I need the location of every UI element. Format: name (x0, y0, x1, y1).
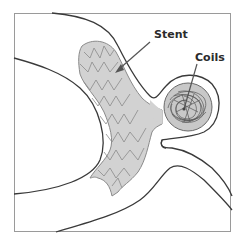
coils-pointer-dot-icon (182, 107, 185, 110)
vessel-wall-lower (56, 166, 232, 232)
stent-label: Stent (154, 28, 188, 41)
aneurysm (164, 83, 212, 131)
diagram-canvas: Stent Coils (0, 0, 244, 246)
coils-label: Coils (195, 51, 225, 64)
stent (79, 41, 162, 196)
diagram-svg (0, 0, 244, 246)
